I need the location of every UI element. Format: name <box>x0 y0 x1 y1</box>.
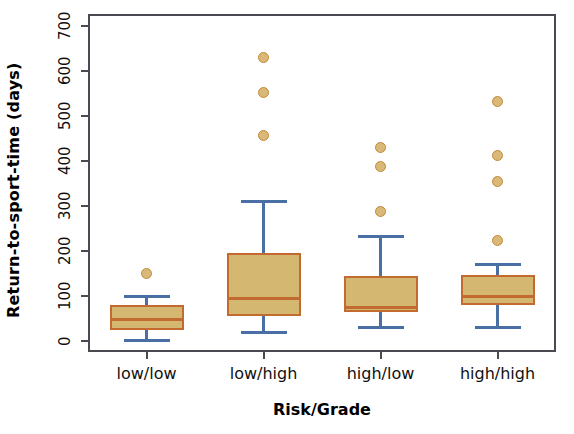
x-tick-mark <box>263 352 265 359</box>
box-iqr <box>227 253 301 316</box>
x-tick-label-high-low: high/low <box>321 364 441 383</box>
y-tick-mark <box>81 160 88 162</box>
y-tick-mark <box>81 250 88 252</box>
outlier-point <box>492 235 503 246</box>
y-tick-mark <box>81 205 88 207</box>
x-tick-label-low-high: low/high <box>204 364 324 383</box>
median-line <box>110 318 184 321</box>
y-tick-label: 500 <box>56 99 76 133</box>
y-tick-label: 300 <box>56 189 76 223</box>
y-tick-mark <box>81 25 88 27</box>
x-tick-mark <box>380 352 382 359</box>
outlier-point <box>141 268 152 279</box>
y-axis-title: Return-to-sport-time (days) <box>4 38 23 318</box>
x-axis-title: Risk/Grade <box>88 400 556 419</box>
y-tick-label: 0 <box>56 324 76 358</box>
median-line <box>461 295 535 298</box>
x-tick-label-high-high: high/high <box>438 364 558 383</box>
whisker-upper <box>496 265 499 275</box>
x-tick-mark <box>497 352 499 359</box>
whisker-cap-upper <box>241 200 287 203</box>
box-iqr <box>461 275 535 305</box>
whisker-lower <box>496 305 499 327</box>
x-tick-label-low-low: low/low <box>87 364 207 383</box>
whisker-cap-upper <box>124 295 170 298</box>
whisker-cap-upper <box>475 263 521 266</box>
outlier-point <box>492 150 503 161</box>
y-tick-label: 400 <box>56 144 76 178</box>
whisker-cap-lower <box>475 326 521 329</box>
y-tick-label: 700 <box>56 9 76 43</box>
whisker-lower <box>262 316 265 333</box>
whisker-upper <box>262 202 265 254</box>
y-tick-mark <box>81 340 88 342</box>
whisker-cap-lower <box>241 331 287 334</box>
whisker-cap-lower <box>124 339 170 342</box>
y-tick-label: 100 <box>56 279 76 313</box>
x-tick-mark <box>146 352 148 359</box>
whisker-cap-lower <box>358 326 404 329</box>
outlier-point <box>492 176 503 187</box>
median-line <box>227 297 301 300</box>
y-tick-mark <box>81 115 88 117</box>
y-tick-label: 200 <box>56 234 76 268</box>
y-tick-mark <box>81 70 88 72</box>
whisker-cap-upper <box>358 235 404 238</box>
median-line <box>344 306 418 309</box>
y-tick-mark <box>81 295 88 297</box>
boxplot-figure: Return-to-sport-time (days) 010020030040… <box>0 0 574 434</box>
outlier-point <box>258 52 269 63</box>
outlier-point <box>375 142 386 153</box>
outlier-point <box>492 96 503 107</box>
y-tick-label: 600 <box>56 54 76 88</box>
whisker-upper <box>379 236 382 276</box>
